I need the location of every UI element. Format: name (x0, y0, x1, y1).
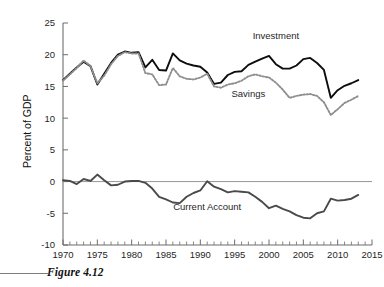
x-axis-tick-labels: 1970197519801985199019952000200520102015 (52, 249, 382, 260)
series-label-current-account: Current Account (173, 201, 241, 212)
series-annotation-labels: InvestmentSavingsCurrent Account (173, 30, 299, 212)
y-tick-label: 15 (44, 81, 55, 92)
x-tick-label: 2000 (258, 249, 279, 260)
x-tick-label: 1985 (155, 249, 176, 260)
x-tick-label: 2010 (327, 249, 348, 260)
x-tick-label: 2005 (293, 249, 314, 260)
figure-container: Percent of GDP -10-50510152025 197019751… (0, 0, 384, 287)
y-axis-tick-labels: -10-50510152025 (41, 17, 55, 250)
x-tick-label: 1990 (190, 249, 211, 260)
figure-caption: Figure 4.12 (47, 266, 104, 278)
x-tick-label: 1970 (52, 249, 73, 260)
y-tick-label: 10 (44, 113, 55, 124)
x-tick-label: 1975 (87, 249, 108, 260)
series-label-investment: Investment (253, 30, 300, 41)
caption-rule (0, 273, 48, 274)
x-tick-label: 2015 (361, 249, 382, 260)
data-series-group (63, 52, 358, 219)
series-label-savings: Savings (231, 88, 265, 99)
x-tick-label: 1995 (224, 249, 245, 260)
x-tick-label: 1980 (121, 249, 142, 260)
y-tick-label: 25 (44, 17, 55, 28)
y-tick-label: 0 (50, 176, 55, 187)
y-axis-title: Percent of GDP (21, 94, 33, 168)
y-tick-label: -5 (47, 208, 55, 219)
y-tick-label: 5 (50, 144, 55, 155)
y-tick-label: 20 (44, 49, 55, 60)
x-axis-ticks (63, 240, 372, 246)
y-axis-ticks (63, 23, 68, 245)
line-chart: Percent of GDP -10-50510152025 197019751… (0, 0, 384, 287)
investment-line (63, 52, 358, 98)
